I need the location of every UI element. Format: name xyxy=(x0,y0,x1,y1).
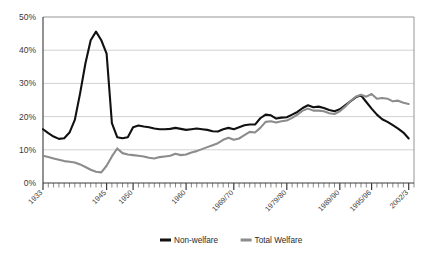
y-axis-tick-label: 0% xyxy=(24,178,37,188)
x-axis-tick-label: 1933 xyxy=(26,188,44,206)
x-axis-tick-label: 1969/70 xyxy=(210,188,235,213)
x-axis-tick-label: 1950 xyxy=(117,188,135,206)
y-axis-tick-labels: 0%10%20%30%40%50% xyxy=(19,12,36,188)
x-axis-tick-label: 1989/90 xyxy=(316,188,341,213)
legend-label: Total Welfare xyxy=(255,236,303,245)
plot-background xyxy=(43,17,414,183)
x-axis-tick-label: 1979/80 xyxy=(263,188,288,213)
x-axis-tick-label: 1945 xyxy=(90,188,108,206)
x-axis-tick-labels: 19331945195019601969/701979/801989/90199… xyxy=(26,188,410,213)
x-axis-tick-label: 2002/3 xyxy=(388,188,410,210)
chart-container: 0%10%20%30%40%50% 19331945195019601969/7… xyxy=(0,0,429,256)
y-axis-tick-label: 10% xyxy=(19,145,36,155)
legend-label: Non-welfare xyxy=(174,236,219,245)
chart-legend: Non-welfareTotal Welfare xyxy=(160,236,303,245)
y-axis-tick-label: 20% xyxy=(19,112,36,122)
y-axis-tick-label: 40% xyxy=(19,45,36,55)
x-axis-tick-label: 1960 xyxy=(170,188,188,206)
line-chart: 0%10%20%30%40%50% 19331945195019601969/7… xyxy=(0,0,429,256)
y-axis-tick-label: 30% xyxy=(19,78,36,88)
y-axis-tick-label: 50% xyxy=(19,12,36,22)
x-axis-tick-label: 1995/96 xyxy=(348,188,373,213)
